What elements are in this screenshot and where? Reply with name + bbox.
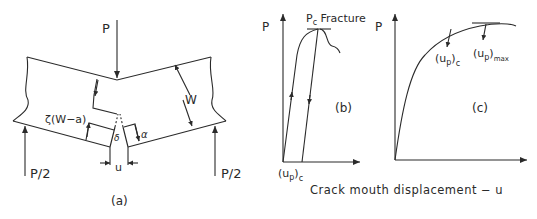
crack-dashed-right (120, 114, 123, 127)
notch-right-flank (123, 127, 128, 147)
cmod-label: u (115, 161, 122, 174)
b-y-axis-label: P (262, 20, 269, 34)
depth-label: W (185, 93, 197, 107)
b-loading-curve (283, 29, 318, 162)
hinge-box-left (86, 123, 114, 140)
b-post-peak-tail (320, 29, 340, 53)
panel-b-chart (283, 14, 360, 162)
b-unload-dir-arrow (309, 95, 310, 104)
support-left-label: P/2 (30, 166, 51, 181)
c-y-axis-label: P (375, 20, 382, 34)
beam-right-break (210, 57, 226, 121)
depth-arrow-up (175, 65, 190, 95)
c-marker1-arrow (447, 29, 451, 47)
hinge-leader (93, 79, 117, 114)
c-marker1-label: (up)c (435, 52, 460, 68)
c-marker2-arrow (483, 24, 486, 40)
support-right-label: P/2 (221, 166, 242, 181)
caption-a: (a) (111, 194, 128, 208)
caption-c: (c) (472, 101, 488, 115)
figure: P W ζ(W−a) δ α u P/2 P/2 (a) P Pc Fractu… (0, 0, 537, 219)
caption-b: (b) (335, 101, 352, 115)
b-x-marker-label: (up)c (278, 167, 303, 183)
alpha-label: α (141, 129, 148, 140)
panel-a-beam-diagram (13, 57, 226, 165)
panel-c-chart (395, 14, 527, 160)
c-marker2-label: (up)max (473, 47, 509, 63)
b-peak-label: Pc Fracture (306, 12, 366, 27)
beam-left-break (13, 57, 28, 121)
hinge-label: ζ(W−a) (45, 113, 86, 126)
shared-x-axis-label: Crack mouth displacement − u (310, 183, 503, 197)
c-envelope-curve (395, 24, 516, 160)
beam-top-edge (27, 57, 211, 80)
crack-dashed-left (115, 114, 118, 127)
alpha-arrow (135, 125, 139, 141)
delta-label: δ (114, 133, 120, 143)
b-load-dir-arrow (291, 92, 292, 100)
load-label: P (102, 21, 110, 36)
